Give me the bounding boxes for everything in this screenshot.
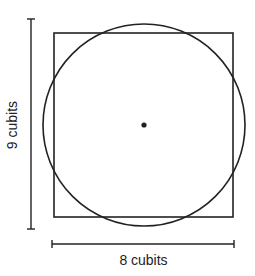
width-label: 8 cubits <box>0 252 255 268</box>
circle-square-diagram: 9 cubits 8 cubits <box>0 0 255 276</box>
width-dimension-line <box>52 240 234 248</box>
diagram-canvas <box>0 0 255 276</box>
center-point <box>141 122 146 127</box>
height-dimension-line <box>27 19 35 229</box>
height-label: 9 cubits <box>4 101 20 149</box>
